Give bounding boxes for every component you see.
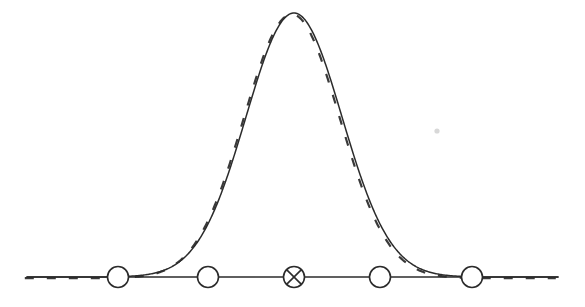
node-marker[interactable]: [108, 267, 129, 288]
open-circle-icon[interactable]: [108, 267, 129, 288]
node-marker[interactable]: [462, 267, 483, 288]
figure-background: [0, 0, 585, 307]
open-circle-icon[interactable]: [198, 267, 219, 288]
faint-speck-icon: [434, 128, 439, 133]
figure-canvas: [0, 0, 585, 307]
open-circle-icon[interactable]: [462, 267, 483, 288]
gaussian-curve-figure: [0, 0, 585, 307]
node-marker[interactable]: [198, 267, 219, 288]
open-circle-icon[interactable]: [370, 267, 391, 288]
node-marker[interactable]: [370, 267, 391, 288]
node-marker[interactable]: [284, 267, 305, 288]
